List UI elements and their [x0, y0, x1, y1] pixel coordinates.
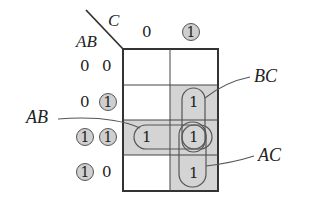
group-label-ac: AC	[258, 146, 281, 164]
cell-r3-c1: 1	[189, 166, 199, 181]
row-variable-label: AB	[76, 33, 97, 50]
group-label-bc: BC	[254, 67, 277, 85]
col-variable-label: C	[108, 12, 119, 29]
row-1-a: 0	[80, 95, 90, 110]
row-2-a-circled: 1	[76, 128, 94, 146]
row-3-b: 0	[102, 165, 112, 180]
karnaugh-map-diagram: C AB 0 1 0 0 0 1 1 1 1 0 1 1 1 1 BC AB A…	[0, 0, 311, 211]
cell-r2-c1: 1	[189, 130, 199, 145]
row-1-b-circled: 1	[99, 93, 117, 111]
row-0-a: 0	[80, 59, 90, 74]
group-label-ab: AB	[26, 108, 48, 126]
col-header-1-circled: 1	[182, 23, 200, 41]
row-2-b-circled: 1	[99, 128, 117, 146]
cell-r2-c0: 1	[142, 130, 152, 145]
kmap-graphics	[0, 0, 311, 211]
col-header-0: 0	[142, 25, 152, 40]
row-3-a-circled: 1	[76, 163, 94, 181]
row-0-b: 0	[102, 59, 112, 74]
cell-r1-c1: 1	[189, 95, 199, 110]
